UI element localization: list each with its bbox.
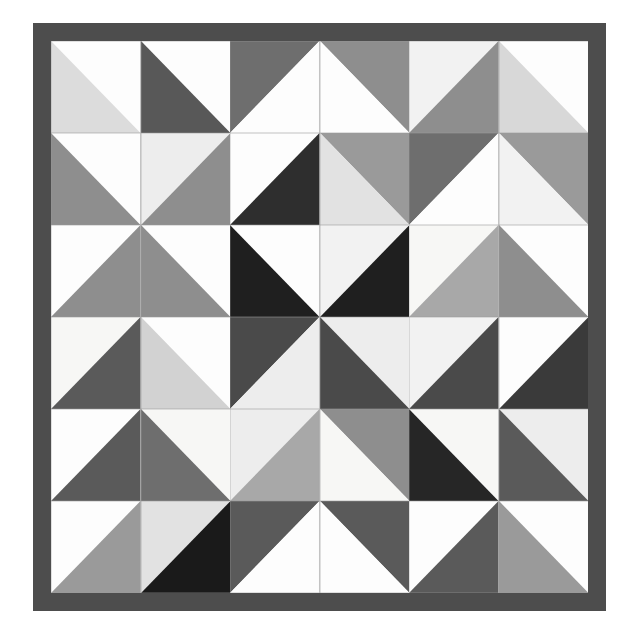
quilt-block-grid — [51, 41, 588, 593]
quilt-border-frame — [33, 23, 606, 611]
quilt-block-r1-c1 — [51, 41, 141, 133]
quilt-block-r3-c1 — [51, 225, 141, 317]
quilt-block-r2-c4 — [320, 133, 410, 225]
quilt-block-r4-c5 — [409, 317, 499, 409]
quilt-block-r3-c3 — [230, 225, 320, 317]
quilt-block-r6-c2 — [141, 501, 231, 593]
quilt-block-r1-c3 — [230, 41, 320, 133]
quilt-block-r3-c6 — [499, 225, 589, 317]
quilt-block-r4-c6 — [499, 317, 589, 409]
quilt-block-r2-c6 — [499, 133, 589, 225]
quilt-block-r2-c5 — [409, 133, 499, 225]
quilt-block-r3-c4 — [320, 225, 410, 317]
quilt-block-r4-c4 — [320, 317, 410, 409]
quilt-block-r4-c2 — [141, 317, 231, 409]
quilt-block-r6-c3 — [230, 501, 320, 593]
quilt-block-r2-c1 — [51, 133, 141, 225]
quilt-block-r5-c4 — [320, 409, 410, 501]
quilt-block-r5-c2 — [141, 409, 231, 501]
quilt-block-r2-c3 — [230, 133, 320, 225]
quilt-block-r3-c2 — [141, 225, 231, 317]
quilt-block-r1-c5 — [409, 41, 499, 133]
quilt-block-r1-c4 — [320, 41, 410, 133]
quilt-block-r5-c5 — [409, 409, 499, 501]
quilt-block-r3-c5 — [409, 225, 499, 317]
quilt-block-r6-c6 — [499, 501, 589, 593]
quilt-block-r4-c3 — [230, 317, 320, 409]
quilt-block-r6-c5 — [409, 501, 499, 593]
quilt-block-r4-c1 — [51, 317, 141, 409]
quilt-block-r1-c2 — [141, 41, 231, 133]
quilt-block-r5-c6 — [499, 409, 589, 501]
quilt-block-r5-c3 — [230, 409, 320, 501]
quilt-block-r6-c1 — [51, 501, 141, 593]
quilt-block-r6-c4 — [320, 501, 410, 593]
quilt-block-r1-c6 — [499, 41, 589, 133]
quilt-block-r5-c1 — [51, 409, 141, 501]
quilt-canvas — [0, 0, 636, 644]
quilt-block-r2-c2 — [141, 133, 231, 225]
